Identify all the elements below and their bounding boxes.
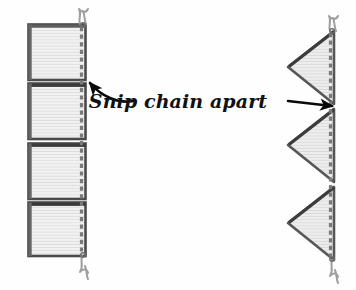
left-rectangle-chain-group (29, 9, 89, 279)
rect-panel-3 (29, 144, 86, 200)
rect-panel-4 (29, 203, 86, 257)
figure-container: Snip chain apart (0, 0, 356, 290)
rect-panel-2 (29, 84, 86, 140)
rect-panel-1 (29, 25, 86, 81)
snip-chain-diagram (0, 0, 356, 290)
